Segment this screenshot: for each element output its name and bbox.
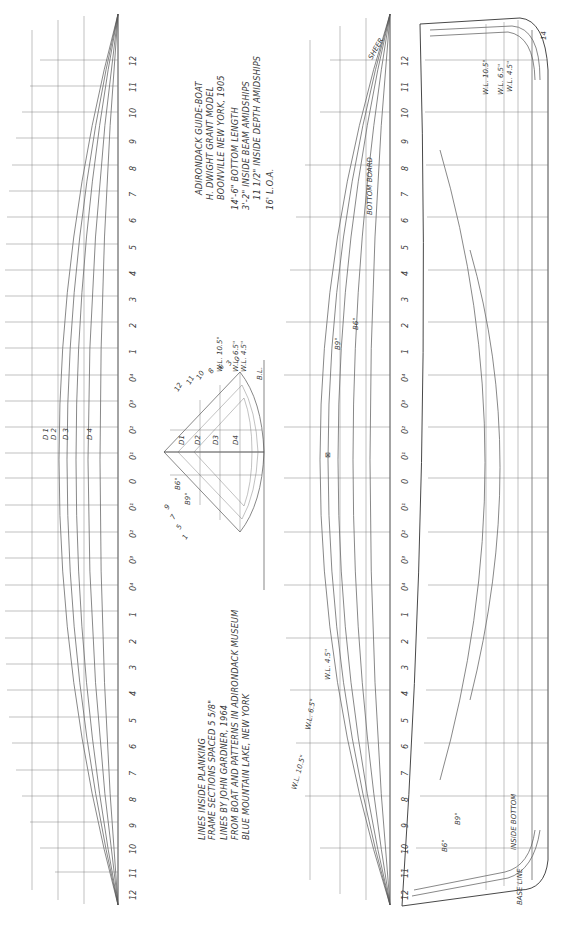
body-station-label: 1 — [181, 533, 190, 541]
base-line-label: BASE LINE — [516, 868, 524, 905]
note-line: LINES BY JOHN GARDNER, 1964 — [219, 705, 229, 840]
station-label: 0⁴ — [129, 582, 138, 591]
title-line: 11 1/2" INSIDE DEPTH AMIDSHIPS — [252, 56, 262, 200]
station-label: 8 — [129, 166, 138, 171]
note-line: BLUE MOUNTAIN LAKE, NEW YORK — [241, 693, 251, 840]
body-diagonal-label: D2 — [194, 435, 202, 445]
station-label: 0⁴ — [401, 582, 410, 591]
station-label: 9 — [401, 139, 410, 144]
note-line: FRAME SECTIONS SPACED 5 5/8" — [207, 700, 217, 840]
station-label: 7 — [129, 770, 138, 776]
body-diagonal-label: D1 — [178, 435, 186, 445]
station-label: 1 — [401, 349, 410, 354]
body-plan: 12 11 10 8 6 3 0 1 5 7 9 D1 D2 D3 D4 B6"… — [163, 336, 264, 590]
station-label: 2 — [401, 323, 410, 328]
station-label: 0⁴ — [129, 373, 138, 382]
station-label: 0² — [401, 425, 410, 434]
body-station-label: 5 — [175, 523, 184, 531]
half-breadth-plan: SHEER BOTTOM BOARD B9" B6" ⊠ W.L. 4.5" W… — [284, 14, 390, 905]
station-label: 9 — [129, 139, 138, 144]
station-label: 2 — [401, 639, 410, 644]
diagonal-label: D 1 — [42, 428, 50, 440]
station-label: 6 — [129, 744, 138, 749]
waterline-label: W.L. 4.5" — [324, 649, 332, 680]
body-diagonal-label: D4 — [232, 435, 240, 445]
station-label: 3 — [401, 665, 410, 670]
station-label: 2 — [129, 639, 138, 644]
body-station-label: 9 — [163, 503, 172, 511]
station-label: 0¹ — [129, 452, 138, 460]
station-label: 11 — [129, 82, 138, 92]
body-station-label: 12 — [173, 381, 185, 393]
station-numbers-middle: 12 11 10 9 8 7 6 5 4 3 2 1 0⁴ 0³ 0² 0¹ 0… — [401, 56, 410, 900]
station-numbers-left: 12 11 10 9 8 7 6 5 4 3 2 1 0⁴ 0³ 0² 0¹ 0… — [129, 56, 138, 900]
diagonal-label: D 3 — [62, 428, 70, 440]
station-marker: ⊠ — [324, 452, 332, 458]
title-line: 3'-2" INSIDE BEAM AMIDSHIPS — [241, 81, 251, 210]
station-label: 10 — [129, 108, 138, 118]
station-label: 8 — [401, 166, 410, 171]
station-label: 6 — [129, 218, 138, 223]
notes-block: LINES INSIDE PLANKING FRAME SECTIONS SPA… — [197, 609, 251, 840]
body-buttock-label: B9" — [184, 493, 192, 505]
diagonals-plan: D 1 D 2 D 3 D 4 — [5, 14, 118, 905]
station-label: 3 — [401, 297, 410, 302]
station-label: 12 — [401, 56, 410, 66]
profile-waterline-label: W.L. 10.5" — [482, 59, 490, 95]
body-waterline-label: W.L. 4.5" — [240, 341, 248, 372]
title-line: ADIRONDACK GUIDE-BOAT — [194, 81, 204, 196]
station-label: 5 — [129, 718, 138, 723]
station-label: 5 — [401, 718, 410, 723]
station-label: 11 — [129, 868, 138, 878]
profile-waterline-label: W.L. 4.5" — [506, 61, 514, 92]
note-line: LINES INSIDE PLANKING — [197, 738, 207, 840]
body-station-label: 7 — [169, 513, 178, 521]
profile-buttock-label: B9" — [454, 813, 462, 825]
waterline-label: W.L. 10.5" — [290, 754, 307, 791]
bottom-board-label: BOTTOM BOARD — [366, 156, 374, 215]
station-label: 6 — [401, 744, 410, 749]
inside-bottom-label: INSIDE BOTTOM — [510, 794, 518, 850]
title-line: 14'-6" BOTTOM LENGTH — [230, 107, 240, 210]
station-label: 0² — [129, 425, 138, 434]
station-label: 6 — [401, 218, 410, 223]
station-label: 1 — [129, 349, 138, 354]
station-label: 0¹ — [401, 503, 410, 511]
lines-drawing-sheet: D 1 D 2 D 3 D 4 12 11 10 9 8 7 6 5 4 3 2… — [0, 0, 563, 929]
station-label: 12 — [129, 890, 138, 900]
station-label: 5 — [401, 245, 410, 250]
station-label: 9 — [129, 823, 138, 828]
station-label: 0³ — [129, 556, 138, 564]
profile-waterline-label: W.L. 6.5" — [497, 64, 505, 95]
title-line: BOONVILLE NEW YORK, 1905 — [216, 75, 226, 200]
station-label: 0 — [129, 479, 138, 484]
station-label: 0 — [401, 479, 410, 484]
station-label: 0¹ — [401, 452, 410, 460]
diagonal-label: D 4 — [86, 428, 94, 440]
title-block: ADIRONDACK GUIDE-BOAT H. DWIGHT GRANT MO… — [194, 56, 275, 210]
station-label: 4 — [129, 691, 138, 696]
station-label: 11 — [401, 868, 410, 878]
buttock-label: B9" — [334, 338, 342, 350]
station-label: 4 — [129, 271, 138, 276]
station-label: 3 — [129, 665, 138, 670]
body-diagonal-label: D3 — [212, 435, 220, 445]
body-buttock-label: B6" — [174, 478, 182, 490]
station-label: 0¹ — [129, 503, 138, 511]
station-grid-left — [5, 16, 118, 904]
title-line: H. DWIGHT GRANT MODEL — [205, 86, 215, 200]
station-label: 0⁴ — [401, 373, 410, 382]
waterline-label: W.L. 6.5" — [304, 698, 317, 730]
station-label: 0² — [129, 529, 138, 538]
station-label: 0³ — [401, 400, 410, 408]
diagonal-label: D 2 — [50, 427, 58, 440]
title-line: 16' L.O.A. — [265, 168, 275, 210]
body-station-label: 8 — [207, 367, 216, 375]
sheer-label: SHEER — [367, 37, 386, 61]
station-label: 7 — [129, 191, 138, 197]
station-label: 0³ — [129, 400, 138, 408]
station-label: 1 — [129, 612, 138, 617]
baseline-label: B.L. — [256, 367, 264, 380]
station-label: 11 — [401, 82, 410, 92]
station-label: 5 — [129, 245, 138, 250]
